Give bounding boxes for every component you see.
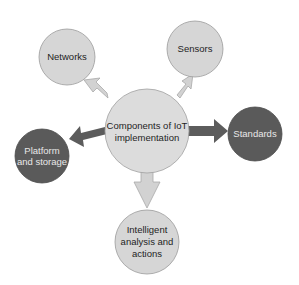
node-standards: Standards [228, 107, 282, 161]
center-node: Components of IoT implementation [105, 89, 189, 173]
standards-label: Standards [233, 128, 277, 139]
arrow-to-sensors [177, 74, 193, 98]
platform-label-line2: and storage [17, 156, 67, 167]
node-intelligent: Intelligent analysis and actions [115, 210, 179, 274]
intelligent-label-line3: actions [132, 248, 162, 259]
arrow-to-platform [69, 126, 107, 147]
intelligent-label-line1: Intelligent [127, 224, 168, 235]
intelligent-label-line2: analysis and [121, 236, 174, 247]
arrow-to-standards [188, 119, 228, 143]
center-label-line1: Components of IoT [107, 120, 188, 131]
node-platform: Platform and storage [15, 129, 69, 183]
arrow-to-intelligent [134, 171, 160, 208]
iot-components-diagram: Components of IoT implementation Network… [0, 0, 299, 285]
networks-label: Networks [47, 51, 87, 62]
center-label-line2: implementation [115, 132, 179, 143]
arrow-to-networks [84, 78, 108, 98]
platform-label-line1: Platform [24, 145, 59, 156]
node-sensors: Sensors [167, 21, 223, 77]
sensors-label: Sensors [178, 43, 213, 54]
node-networks: Networks [39, 29, 95, 85]
